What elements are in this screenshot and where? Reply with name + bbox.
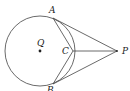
center-point-q bbox=[39, 50, 42, 53]
geometry-diagram: A Q C P B bbox=[0, 0, 130, 91]
point-p bbox=[116, 50, 118, 52]
label-a: A bbox=[48, 5, 56, 15]
label-q: Q bbox=[37, 38, 45, 48]
label-c: C bbox=[62, 46, 69, 56]
label-b: B bbox=[46, 85, 54, 91]
label-p: P bbox=[121, 46, 129, 56]
